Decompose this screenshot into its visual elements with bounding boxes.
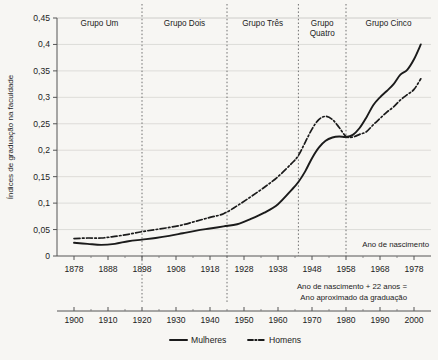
group-label: Grupo Três [242, 19, 283, 28]
x-tick-label: 1898 [132, 264, 151, 274]
x-tick-label: 1918 [200, 264, 219, 274]
secondary-tick-label: 1930 [166, 315, 185, 325]
secondary-tick-label: 2000 [404, 315, 423, 325]
y-tick-label: 0,35 [33, 66, 50, 76]
group-label: Quatro [310, 29, 335, 38]
y-tick-label: 0,1 [38, 198, 50, 208]
group-label: Grupo [311, 19, 334, 28]
secondary-tick-label: 1960 [268, 315, 287, 325]
y-tick-label: 0,3 [38, 92, 50, 102]
x-tick-label: 1978 [404, 264, 423, 274]
secondary-axis-caption-line2: Ano aproximado da graduação [300, 293, 407, 302]
chart-figure: Grupo UmGrupo DoisGrupo TrêsGrupoQuatroG… [0, 0, 438, 360]
legend-label-homens: Homens [269, 335, 301, 345]
group-label: Grupo Dois [164, 19, 205, 28]
secondary-tick-label: 1950 [234, 315, 253, 325]
secondary-tick-label: 1990 [370, 315, 389, 325]
y-tick-label: 0 [45, 251, 50, 261]
x-tick-label: 1928 [234, 264, 253, 274]
secondary-tick-label: 1940 [200, 315, 219, 325]
x-tick-label: 1958 [336, 264, 355, 274]
y-tick-label: 0,2 [38, 145, 50, 155]
y-axis-title: Índices de graduação na faculdade [6, 74, 15, 199]
x-tick-label: 1948 [302, 264, 321, 274]
y-tick-label: 0,25 [33, 119, 50, 129]
y-tick-label: 0,15 [33, 172, 50, 182]
secondary-tick-label: 1980 [336, 315, 355, 325]
chart-background [0, 0, 438, 360]
x-tick-label: 1938 [268, 264, 287, 274]
group-label: Grupo Um [81, 19, 119, 28]
x-tick-label: 1908 [166, 264, 185, 274]
secondary-tick-label: 1900 [64, 315, 83, 325]
y-tick-label: 0,4 [38, 39, 50, 49]
x-axis-title: Ano de nascimento [362, 240, 429, 249]
x-tick-label: 1968 [370, 264, 389, 274]
legend-label-mulheres: Mulheres [191, 335, 226, 345]
y-tick-label: 0,45 [33, 13, 50, 23]
y-tick-label: 0,05 [33, 225, 50, 235]
secondary-axis-caption-line1: Ano de nascimento + 22 anos = [297, 282, 408, 291]
x-tick-label: 1878 [64, 264, 83, 274]
group-label: Grupo Cinco [366, 19, 412, 28]
secondary-tick-label: 1920 [132, 315, 151, 325]
x-tick-label: 1888 [98, 264, 117, 274]
secondary-tick-label: 1970 [302, 315, 321, 325]
chart-svg: Grupo UmGrupo DoisGrupo TrêsGrupoQuatroG… [0, 0, 438, 360]
secondary-tick-label: 1910 [98, 315, 117, 325]
